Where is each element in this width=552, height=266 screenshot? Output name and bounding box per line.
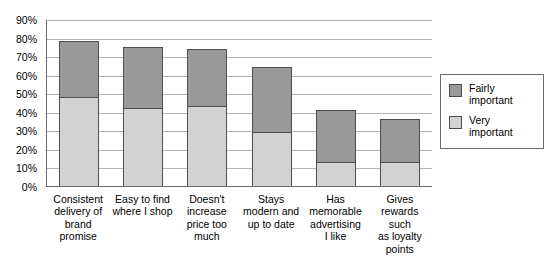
bar-segment-fairly-important[interactable]: [316, 110, 356, 162]
y-axis: 90%80%70%60%50%40%30%20%10%0%: [0, 0, 44, 266]
legend-item[interactable]: Fairlyimportant: [449, 83, 537, 106]
x-axis-category-label: Givesrewards suchas loyaltypoints: [369, 193, 431, 255]
y-axis-tick-label: 0%: [22, 182, 37, 192]
bar-segment-very-important[interactable]: [187, 106, 227, 186]
bar-stack[interactable]: [380, 119, 420, 186]
y-axis-tick-label: 80%: [16, 34, 37, 44]
bar-segment-fairly-important[interactable]: [59, 41, 99, 97]
bar-segment-very-important[interactable]: [316, 162, 356, 186]
bar-stack[interactable]: [316, 110, 356, 186]
bar-stack[interactable]: [123, 47, 163, 186]
bar-group: [123, 20, 163, 186]
bar-stack[interactable]: [187, 49, 227, 186]
bar-segment-very-important[interactable]: [59, 97, 99, 186]
bar-segment-fairly-important[interactable]: [380, 119, 420, 162]
bar-group: [252, 20, 292, 186]
bar-segment-fairly-important[interactable]: [252, 67, 292, 132]
y-axis-tick-label: 90%: [16, 15, 37, 25]
bars-layer: [47, 20, 432, 186]
legend-item[interactable]: Veryimportant: [449, 115, 537, 138]
stacked-bar-chart: 90%80%70%60%50%40%30%20%10%0% Consistent…: [0, 0, 552, 266]
x-axis: Consistentdelivery ofbrandpromiseEasy to…: [46, 193, 432, 266]
bar-segment-very-important[interactable]: [252, 132, 292, 186]
bar-stack[interactable]: [59, 41, 99, 186]
bar-segment-fairly-important[interactable]: [187, 49, 227, 107]
legend-item-label: Veryimportant: [469, 115, 513, 138]
bar-segment-fairly-important[interactable]: [123, 47, 163, 108]
bar-group: [380, 20, 420, 186]
plot-area: [46, 20, 432, 187]
x-axis-category-label: Consistentdelivery ofbrandpromise: [47, 193, 109, 243]
x-axis-category-label: Easy to findwhere I shop: [111, 193, 173, 218]
legend-color-swatch: [449, 84, 462, 97]
y-axis-tick-label: 50%: [16, 89, 37, 99]
y-axis-tick-label: 20%: [16, 145, 37, 155]
bar-group: [59, 20, 99, 186]
legend-color-swatch: [449, 116, 462, 129]
x-axis-category-label: Staysmodern andup to date: [240, 193, 302, 230]
bar-segment-very-important[interactable]: [380, 162, 420, 186]
y-axis-tick-label: 40%: [16, 108, 37, 118]
x-axis-category-label: Doesn'tincreaseprice toomuch: [176, 193, 238, 243]
bar-stack[interactable]: [252, 67, 292, 186]
y-axis-tick-label: 70%: [16, 52, 37, 62]
bar-group: [187, 20, 227, 186]
bar-segment-very-important[interactable]: [123, 108, 163, 186]
chart-legend: FairlyimportantVeryimportant: [440, 74, 544, 149]
y-axis-tick-label: 30%: [16, 126, 37, 136]
y-axis-tick-label: 60%: [16, 71, 37, 81]
legend-item-label: Fairlyimportant: [469, 83, 513, 106]
bar-group: [316, 20, 356, 186]
y-axis-tick-label: 10%: [16, 163, 37, 173]
x-axis-category-label: HasmemorableadvertisingI like: [304, 193, 366, 243]
